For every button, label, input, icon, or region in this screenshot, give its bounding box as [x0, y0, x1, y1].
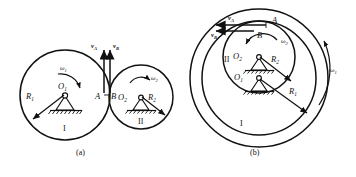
- wheel-I-roman-label: I: [63, 124, 66, 133]
- caption-b: (b): [250, 148, 260, 157]
- contact-point-A-label-panel-b: A: [271, 15, 278, 25]
- contact-point-A-label: A: [94, 91, 101, 101]
- wheel-II-omega-arc: [130, 77, 150, 83]
- velocity-label-B-panel-b: vB: [211, 31, 217, 40]
- wheel-II-omega-label-panel-b: ω2: [281, 37, 289, 46]
- wheel-II-radius-label: R2: [147, 92, 156, 103]
- wheel-II-radius-label-panel-b: R2: [270, 54, 279, 65]
- contact-point-B-label-panel-b: B: [257, 30, 262, 40]
- wheel-I-center-label: O1: [58, 81, 67, 92]
- panel-b: O2 R2 ω2 II O1 R1 ω1 I A B vA vB (b): [190, 9, 337, 157]
- panel-a: O1 R1 ω1 I O2 R2 ω2 II A B vA vB (a): [20, 42, 173, 157]
- ring-I-center-label-panel-b: O1: [234, 72, 243, 83]
- velocity-label-A-panel-a: vA: [91, 42, 97, 51]
- ring-I-radius-label-panel-b: R1: [288, 86, 297, 97]
- velocity-vector-A-panel-b: [216, 22, 266, 28]
- wheel-II-center-label: O2: [118, 92, 127, 103]
- wheel-I-omega-label: ω1: [60, 64, 67, 73]
- figure-container: O1 R1 ω1 I O2 R2 ω2 II A B vA vB (a): [0, 0, 356, 177]
- caption-a: (a): [76, 148, 85, 157]
- wheel-II-omega-label: ω2: [151, 74, 159, 83]
- ring-I-roman-label-panel-b: I: [240, 119, 243, 128]
- velocity-label-B-panel-a: vB: [113, 42, 119, 51]
- wheel-II-center-label-panel-b: O2: [233, 51, 242, 62]
- contact-point-B-label: B: [111, 91, 116, 101]
- wheel-II-roman-label: II: [138, 117, 144, 126]
- wheel-II-roman-label-panel-b: II: [224, 55, 230, 64]
- ring-I-omega-label-panel-b: ω1: [330, 66, 337, 75]
- wheel-I-radius-label: R1: [25, 91, 34, 102]
